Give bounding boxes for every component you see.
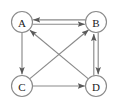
node-a-circle bbox=[12, 12, 33, 33]
edges-layer bbox=[22, 20, 98, 86]
node-b-circle bbox=[86, 12, 107, 33]
node-a[interactable]: A bbox=[12, 12, 33, 33]
graph-diagram: A B C D bbox=[0, 0, 118, 108]
node-d-circle bbox=[86, 76, 107, 97]
node-b[interactable]: B bbox=[86, 12, 107, 33]
node-c[interactable]: C bbox=[12, 76, 33, 97]
node-d[interactable]: D bbox=[86, 76, 107, 97]
node-c-circle bbox=[12, 76, 33, 97]
graph-canvas: A B C D bbox=[0, 0, 118, 108]
